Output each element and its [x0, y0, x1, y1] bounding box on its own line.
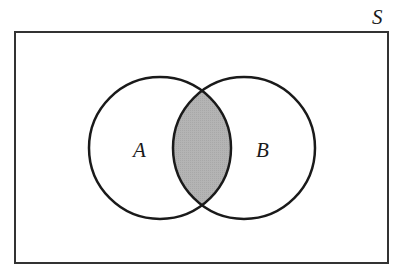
universe-label: S [372, 5, 383, 29]
venn-diagram: S A B [0, 0, 397, 272]
set-a-label: A [131, 138, 146, 162]
set-b-label: B [256, 138, 269, 162]
